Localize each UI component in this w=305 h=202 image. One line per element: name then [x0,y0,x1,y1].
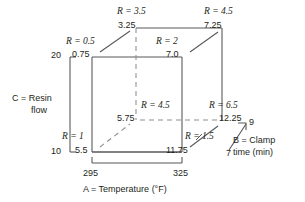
value-top-front-left: 0.75 [72,49,90,60]
value-bot-front-left: 5.5 [75,145,88,156]
range-label-bot-front-right: R = 1.5 [185,131,214,142]
value-top-back-right: 7.25 [204,20,222,31]
value-bot-back-left: 5.75 [117,113,135,124]
range-label-bot-front-left: R = 1 [62,131,84,142]
range-label-bot-back-left: R = 4.5 [141,100,170,111]
value-bot-back-right: 12.25 [219,113,242,124]
range-label-bot-back-right: R = 6.5 [209,100,238,111]
range-label-top-front-left: R = 0.5 [66,36,95,47]
axis-b-title-line1: B = Clamp [233,135,275,146]
value-top-back-left: 3.25 [118,20,136,31]
value-bot-front-right: 11.75 [166,145,188,156]
edge-diag-top-left [100,31,130,52]
range-label-top-back-left: R = 3.5 [117,6,146,17]
range-label-top-back-right: R = 4.5 [204,6,233,17]
axis-a-title: A = Temperature (°F) [83,184,167,195]
axis-c-title-line1: C = Resin [12,93,52,104]
axis-a-tick-label-low: 295 [83,168,98,179]
axis-c-tick-label-low: 10 [51,146,61,157]
range-label-top-front-right: R = 2 [156,36,178,47]
axis-b-tick-label-high: 9 [249,117,254,128]
axis-b-title-line2: time (min) [233,147,273,158]
axis-c-tick-label-high: 20 [51,50,61,61]
edge-diag-top-right [190,32,218,52]
value-top-front-right: 7.0 [166,49,179,60]
edge-diag-bottom-left-dashed [100,124,130,147]
axis-b-tick-label-low: 7 [226,148,231,159]
axis-a-tick-label-high: 325 [173,168,188,179]
axis-c-title-line2: flow [31,105,47,116]
cube-plot-figure: R = 3.5 3.25 R = 4.5 7.25 R = 0.5 0.75 R… [0,0,305,202]
